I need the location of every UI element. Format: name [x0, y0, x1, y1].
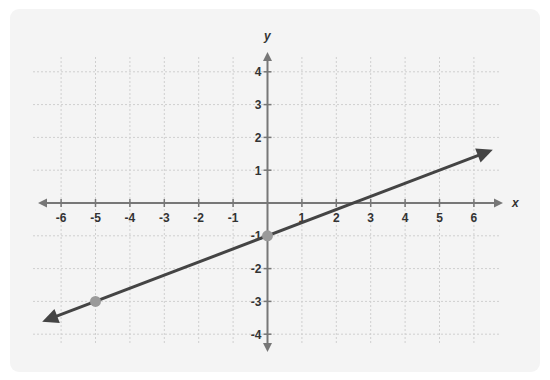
data-point — [90, 296, 101, 307]
x-tick-label: 5 — [436, 211, 443, 225]
x-tick-label: 6 — [471, 211, 478, 225]
x-tick-label: -5 — [90, 211, 101, 225]
y-tick-label: -2 — [251, 262, 262, 276]
x-axis-right-arrow-icon — [494, 199, 503, 208]
y-axis-down-arrow-icon — [263, 343, 272, 352]
x-axis-left-arrow-icon — [38, 199, 47, 208]
y-tick-label: -3 — [251, 295, 262, 309]
y-tick-label: 1 — [255, 164, 262, 178]
x-tick-label: -6 — [56, 211, 67, 225]
y-tick-label: 2 — [255, 131, 262, 145]
data-point — [262, 230, 273, 241]
y-tick-label: 4 — [255, 65, 262, 79]
x-tick-label: 4 — [402, 211, 409, 225]
coordinate-plane: -6-5-4-3-2-1123456-4-3-2-11234 x y — [0, 0, 550, 380]
y-axis-label: y — [263, 29, 272, 43]
x-tick-label: -3 — [159, 211, 170, 225]
y-tick-label: 3 — [255, 98, 262, 112]
x-tick-label: 2 — [333, 211, 340, 225]
x-tick-label: -2 — [193, 211, 204, 225]
y-axis-up-arrow-icon — [263, 52, 272, 61]
x-tick-label: -4 — [125, 211, 136, 225]
y-tick-label: -4 — [251, 328, 262, 342]
axes — [38, 52, 503, 352]
x-tick-label: 3 — [367, 211, 374, 225]
x-tick-label: -1 — [228, 211, 239, 225]
x-axis-label: x — [511, 196, 520, 210]
